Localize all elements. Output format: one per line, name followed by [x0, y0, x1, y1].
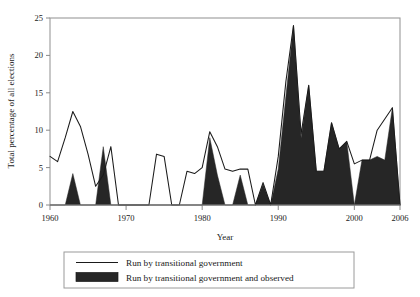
legend-fill-swatch — [76, 273, 118, 282]
x-tick-label: 1980 — [194, 213, 211, 223]
y-tick-label: 10 — [35, 125, 44, 135]
y-tick-label: 0 — [39, 200, 43, 210]
legend-entry-area: Run by transitional government and obser… — [76, 273, 294, 283]
y-tick-label: 20 — [35, 50, 44, 60]
x-tick-label: 2006 — [392, 213, 409, 223]
chart-figure: 0510152025 196019701980199020002006 Year… — [0, 0, 420, 297]
x-tick-label: 1970 — [118, 213, 135, 223]
y-tick-label: 5 — [39, 163, 43, 173]
y-axis-title: Total percentage of all elections — [6, 53, 16, 168]
x-tick-label: 1990 — [270, 213, 287, 223]
chart-legend: Run by transitional government Run by tr… — [64, 252, 354, 288]
y-tick-label: 25 — [35, 13, 44, 23]
x-axis-title: Year — [217, 232, 234, 242]
legend-label-line: Run by transitional government — [126, 258, 243, 268]
x-tick-label: 2000 — [346, 213, 363, 223]
y-tick-label: 15 — [35, 88, 44, 98]
legend-label-area: Run by transitional government and obser… — [126, 273, 294, 283]
x-tick-label: 1960 — [42, 213, 59, 223]
elections-area-chart: 0510152025 196019701980199020002006 Year… — [0, 0, 420, 297]
